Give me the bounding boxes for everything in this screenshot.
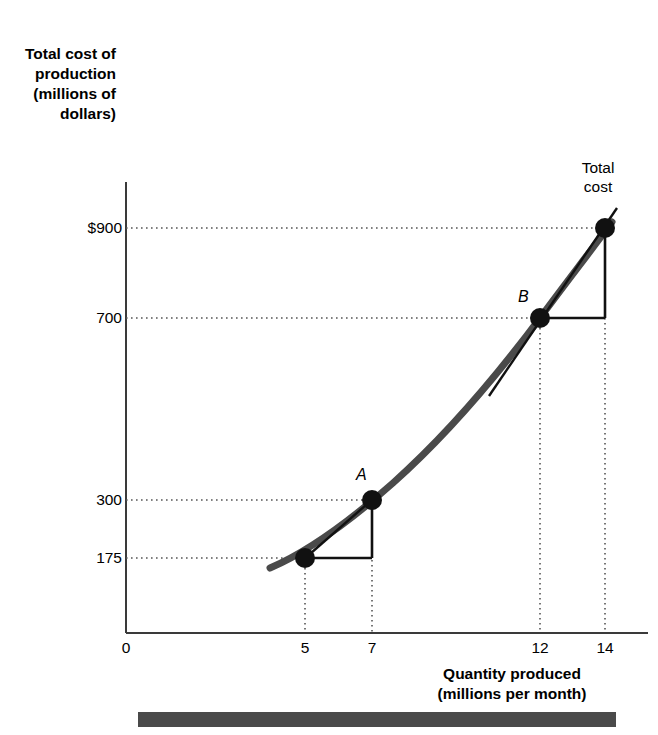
data-point-14-900 [595,218,615,238]
economics-total-cost-figure: Total cost of production (millions of do… [0,0,658,735]
plot-area-svg [0,0,658,735]
tangent-line-at-A [303,498,374,560]
data-point-A [362,490,382,510]
total-cost-curve [270,222,612,568]
tangent-line-at-B [489,208,617,396]
data-point-5-175 [295,548,315,568]
footer-bar [138,712,616,727]
data-point-B [530,308,550,328]
